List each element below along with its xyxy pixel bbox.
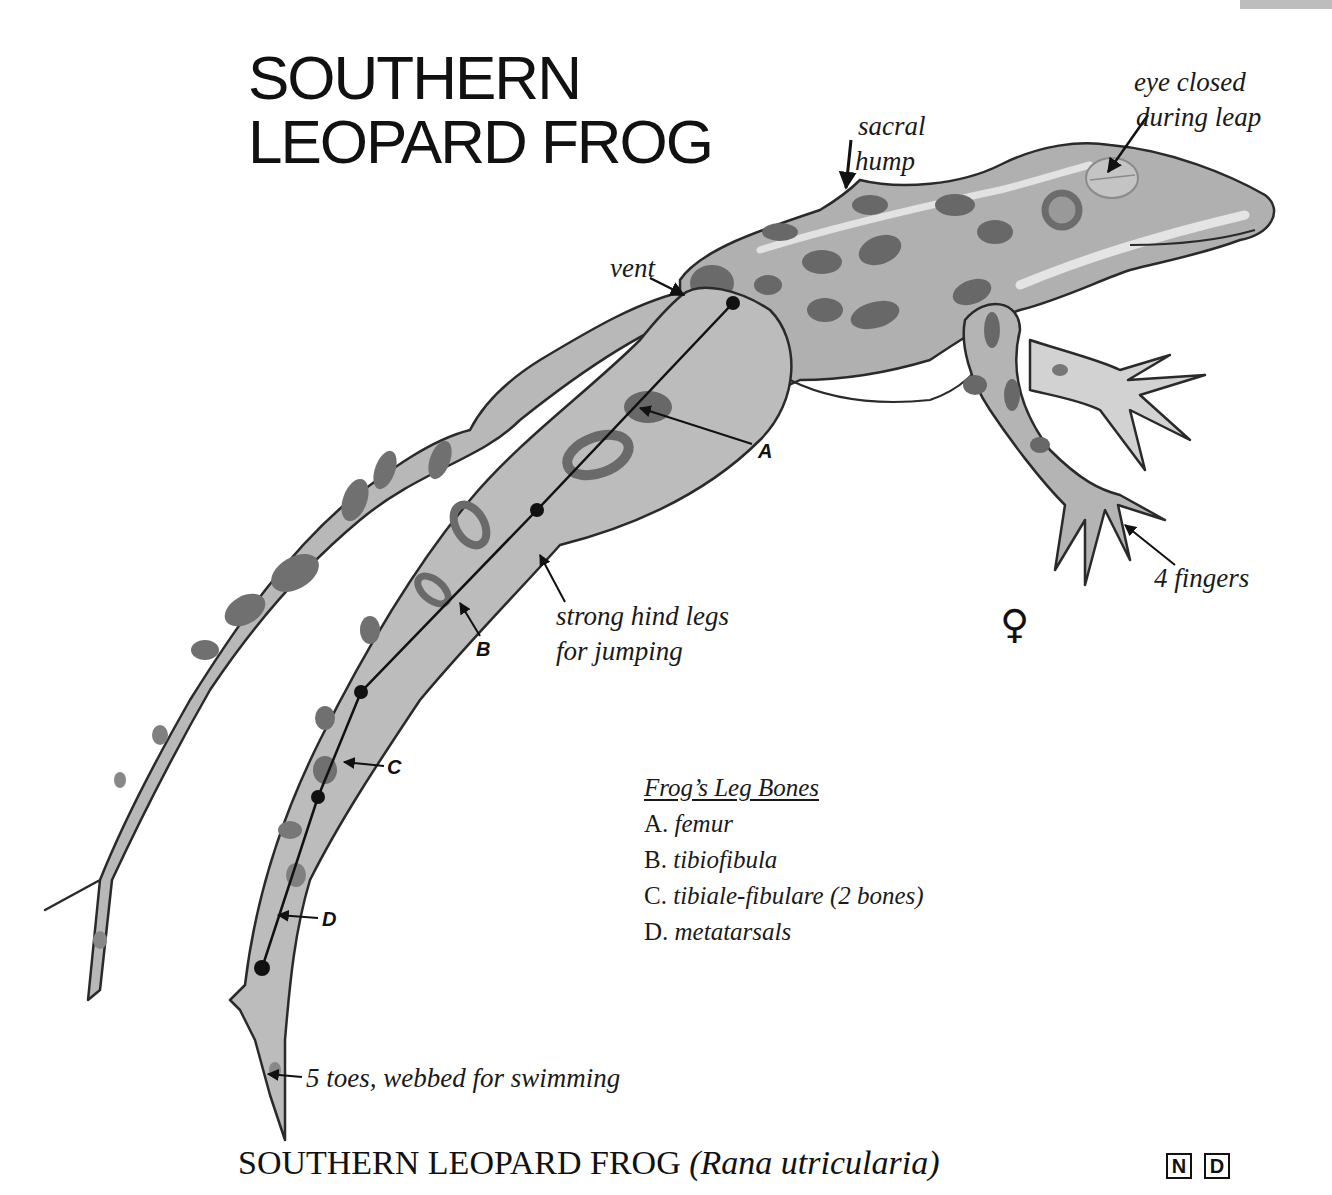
bone-marker-c: C xyxy=(387,756,401,779)
scientific-name: (Rana utricularia) xyxy=(689,1144,939,1181)
legend-key: B. xyxy=(644,846,667,873)
fingers-label: 4 fingers xyxy=(1154,562,1249,594)
common-name: SOUTHERN LEOPARD FROG xyxy=(238,1144,681,1181)
legend-key: A. xyxy=(644,810,668,837)
hind-legs-label-line-2: for jumping xyxy=(556,635,683,667)
eye-label-line-2: during leap xyxy=(1136,101,1261,133)
species-caption: SOUTHERN LEOPARD FROG (Rana utricularia) xyxy=(238,1143,939,1183)
female-symbol-icon: ♀ xyxy=(1000,604,1029,644)
front-leg xyxy=(963,304,1205,585)
eye-label-line-1: eye closed xyxy=(1134,66,1246,98)
legend-item: C. tibiale-fibulare (2 bones) xyxy=(644,878,924,914)
legend-key: C. xyxy=(644,882,667,909)
legend-item: D. metatarsals xyxy=(644,914,924,950)
badge-d: D xyxy=(1204,1153,1230,1179)
bone-marker-b: B xyxy=(476,638,490,661)
leg-bones-legend: Frog’s Leg Bones A. femur B. tibiofibula… xyxy=(644,770,924,950)
vent-label: vent xyxy=(610,252,655,284)
legend-label: tibiofibula xyxy=(673,846,777,873)
badge-group: N D xyxy=(1166,1153,1230,1179)
legend-label: femur xyxy=(675,810,733,837)
legend-title: Frog’s Leg Bones xyxy=(644,770,924,806)
sacral-label-line-1: sacral xyxy=(858,110,926,142)
legend-item: B. tibiofibula xyxy=(644,842,924,878)
toes-label: 5 toes, webbed for swimming xyxy=(306,1062,620,1094)
hind-legs-label-line-1: strong hind legs xyxy=(556,600,729,632)
badge-n: N xyxy=(1166,1153,1192,1179)
legend-label: tibiale-fibulare (2 bones) xyxy=(673,882,923,909)
sacral-label-line-2: hump xyxy=(855,145,915,177)
bone-marker-a: A xyxy=(758,440,772,463)
legend-label: metatarsals xyxy=(675,918,792,945)
legend-item: A. femur xyxy=(644,806,924,842)
legend-key: D. xyxy=(644,918,668,945)
bone-marker-d: D xyxy=(322,908,336,931)
frog-illustration xyxy=(0,0,1332,1195)
